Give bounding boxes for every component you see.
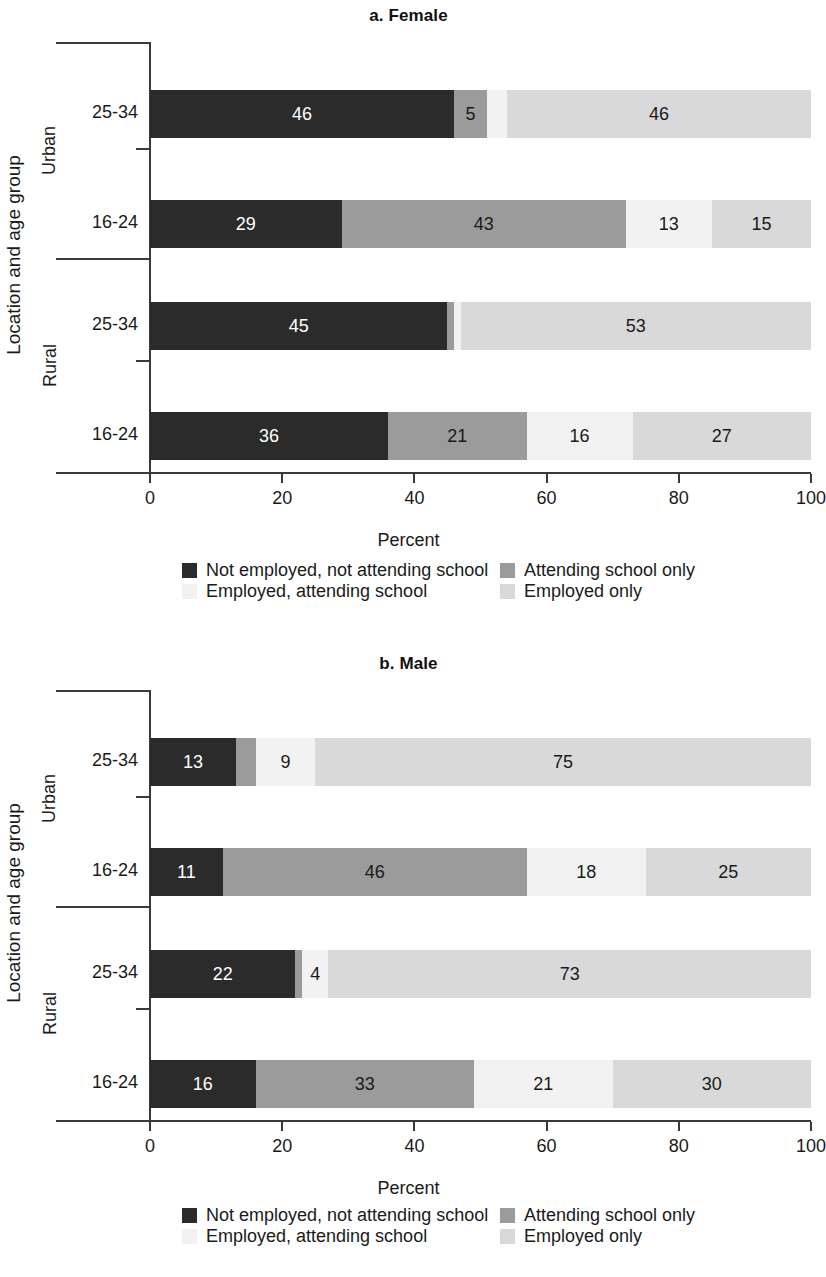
bar-segment-value-label: 45 [289,316,309,337]
bar-segment-value-label: 25 [718,862,738,883]
y-axis-title: Location and age group [0,678,28,1128]
x-axis-title: Percent [0,530,817,551]
group-divider-line [56,42,150,44]
bar-segment: 4 [302,950,328,998]
group-divider-line [56,258,150,260]
group-label-rural: Rural [38,258,62,472]
age-group-tick-label: 16-24 [62,212,138,233]
x-axis-tick [149,474,151,483]
bar-segment-value-label: 9 [280,752,290,773]
legend-item-label: Employed only [524,1226,642,1247]
legend-female: Not employed, not attending schoolAttend… [0,560,817,602]
legend-item-employed_only[interactable]: Employed only [500,581,642,602]
x-axis-tick-label: 20 [272,488,292,509]
age-group-tick-label: 25-34 [62,314,138,335]
bar-segment: 73 [328,950,811,998]
legend-item-attending_only[interactable]: Attending school only [500,560,695,581]
bar-segment-value-label: 15 [751,214,771,235]
y-axis-title: Location and age group [0,30,28,480]
x-axis-tick-label: 100 [796,1136,826,1157]
bar-segment-value-label: 36 [259,426,279,447]
stacked-bar: 29431315 [150,200,811,248]
group-label-text: Urban [40,125,61,174]
group-label-urban: Urban [38,690,62,906]
bar-segment-value-label: 46 [649,104,669,125]
legend-item-not_employed_not_attending[interactable]: Not employed, not attending school [182,1205,500,1226]
bar-segment-value-label: 75 [553,752,573,773]
bar-segment [236,738,256,786]
bar-segment: 25 [646,848,811,896]
plot-area-female: Location and age groupUrbanRural25-34465… [0,30,817,480]
stacked-bar: 13975 [150,738,811,786]
legend-item-employed_attending[interactable]: Employed, attending school [182,1226,500,1247]
plot-area-male: Location and age groupUrbanRural25-34139… [0,678,817,1128]
legend-swatch-icon [500,563,515,578]
x-axis-tick [810,474,812,483]
bar-segment: 30 [613,1060,811,1108]
legend-item-employed_attending[interactable]: Employed, attending school [182,581,500,602]
bar-segment-value-label: 18 [576,862,596,883]
value-axis-line [56,472,811,474]
x-axis-tick [149,1122,151,1131]
bar-segment: 5 [454,90,487,138]
legend-male: Not employed, not attending schoolAttend… [0,1205,817,1247]
x-axis-tick [810,1122,812,1131]
legend-swatch-icon [500,1229,515,1244]
age-group-tick-label: 25-34 [62,750,138,771]
bar-segment [487,90,507,138]
bar-segment-value-label: 33 [355,1074,375,1095]
x-axis-tick [546,1122,548,1131]
legend-swatch-icon [182,1229,197,1244]
bar-segment: 13 [626,200,712,248]
bar-segment: 11 [150,848,223,896]
group-label-text: Rural [40,343,61,386]
bar-segment: 18 [527,848,646,896]
legend-item-attending_only[interactable]: Attending school only [500,1205,695,1226]
legend-swatch-icon [182,563,197,578]
bar-segment-value-label: 30 [702,1074,722,1095]
x-axis-tick [546,474,548,483]
bar-segment-value-label: 13 [183,752,203,773]
bar-segment: 21 [388,412,527,460]
x-axis-tick-label: 40 [404,1136,424,1157]
bar-segment-value-label: 73 [560,964,580,985]
bar-segment: 21 [474,1060,613,1108]
x-axis-tick-label: 20 [272,1136,292,1157]
panel-b-title: b. Male [0,654,817,674]
legend-swatch-icon [182,1208,197,1223]
bar-segment-value-label: 5 [466,104,476,125]
legend-item-label: Employed only [524,581,642,602]
legend-row: Employed, attending schoolEmployed only [0,1226,817,1247]
group-divider-line [56,906,150,908]
bar-segment: 46 [223,848,527,896]
bar-segment: 22 [150,950,295,998]
bar-segment: 53 [461,302,811,350]
bar-segment: 36 [150,412,388,460]
bar-segment: 46 [507,90,811,138]
age-group-tick-label: 16-24 [62,424,138,445]
y-axis-title-text: Location and age group [3,803,25,1003]
category-axis-minor-tick [136,796,150,798]
bar-segment-value-label: 53 [626,316,646,337]
panel-male: b. Male Location and age groupUrbanRural… [0,648,817,1277]
legend-item-label: Not employed, not attending school [206,1205,488,1226]
x-axis-tick [281,1122,283,1131]
bar-segment-value-label: 16 [193,1074,213,1095]
x-axis-tick-label: 80 [669,488,689,509]
age-group-tick-label: 25-34 [62,962,138,983]
bar-segment-value-label: 29 [236,214,256,235]
bar-segment [295,950,302,998]
legend-item-label: Employed, attending school [206,1226,427,1247]
bar-segment: 43 [342,200,626,248]
bar-segment: 75 [315,738,811,786]
x-axis-tick-label: 100 [796,488,826,509]
stacked-bar: 16332130 [150,1060,811,1108]
panel-a-title: a. Female [0,6,817,26]
x-axis-title: Percent [0,1178,817,1199]
legend-item-not_employed_not_attending[interactable]: Not employed, not attending school [182,560,500,581]
panel-female: a. Female Location and age groupUrbanRur… [0,0,817,640]
legend-item-employed_only[interactable]: Employed only [500,1226,642,1247]
bar-segment: 29 [150,200,342,248]
group-label-rural: Rural [38,906,62,1120]
stacked-bar: 22473 [150,950,811,998]
